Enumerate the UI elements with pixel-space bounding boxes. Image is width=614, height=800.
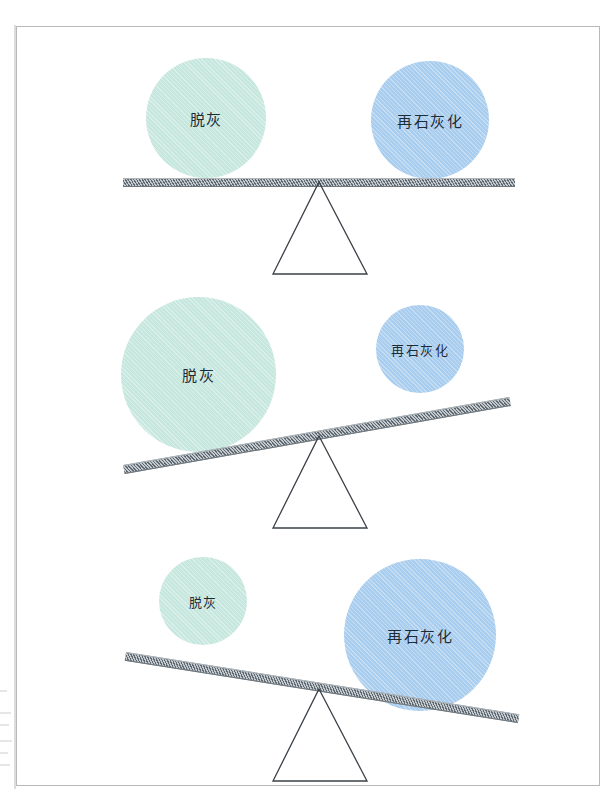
scan-artifact <box>0 712 11 714</box>
figure-frame: 脱灰 再石灰化 脱灰 再石灰化 <box>16 26 600 786</box>
mass-label-demineralization: 脱灰 <box>189 592 218 611</box>
mass-label-remineralization: 再石灰化 <box>391 340 449 359</box>
mass-label-remineralization: 再石灰化 <box>387 625 453 646</box>
scan-artifact <box>0 740 12 742</box>
mass-circle-demineralization: 脱灰 <box>159 557 247 645</box>
mass-label-remineralization: 再石灰化 <box>397 110 463 131</box>
mass-circle-demineralization: 脱灰 <box>146 58 266 178</box>
balance-diagram-3: 脱灰 再石灰化 <box>17 531 601 787</box>
mass-label-demineralization: 脱灰 <box>190 108 223 129</box>
mass-circle-demineralization: 脱灰 <box>121 297 276 452</box>
scan-artifact <box>0 724 9 726</box>
mass-label-demineralization: 脱灰 <box>182 364 215 385</box>
scan-artifact <box>0 752 8 754</box>
balance-diagram-1: 脱灰 再石灰化 <box>17 27 601 279</box>
fulcrum-triangle <box>271 434 371 532</box>
mass-circle-remineralization: 再石灰化 <box>371 61 489 179</box>
mass-circle-remineralization: 再石灰化 <box>376 305 464 393</box>
fulcrum-triangle <box>271 180 371 278</box>
scanned-page: 脱灰 再石灰化 脱灰 再石灰化 <box>0 0 614 800</box>
fulcrum-triangle <box>271 687 371 785</box>
scan-artifact <box>0 690 7 692</box>
balance-diagram-2: 脱灰 再石灰化 <box>17 279 601 531</box>
scan-artifact <box>0 764 10 766</box>
